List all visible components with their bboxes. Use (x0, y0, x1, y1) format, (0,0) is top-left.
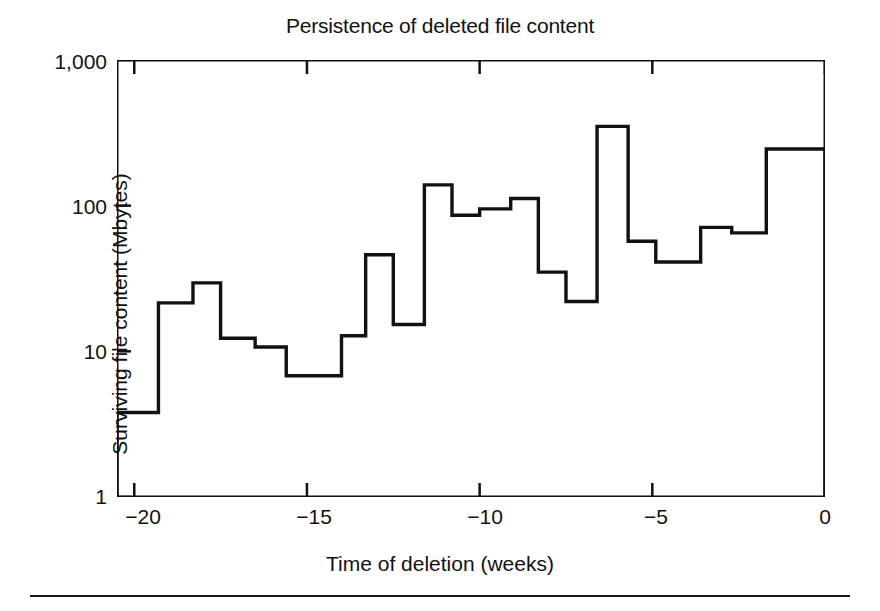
axis-frame-path (117, 60, 825, 497)
y-axis-label: Surviving file content (Mbytes) (108, 79, 132, 549)
x-tick-label-minus10: −10 (445, 505, 525, 529)
step-series-line (117, 126, 825, 497)
y-axis-tick-labels: 1,000 100 10 1 (0, 60, 107, 497)
chart-title: Persistence of deleted file content (0, 14, 880, 38)
x-tick-label-minus5: −5 (616, 505, 696, 529)
x-axis-label: Time of deletion (weeks) (0, 552, 880, 576)
plot-area: Surviving file content (Mbytes) (117, 60, 825, 497)
x-axis-tick-labels: −20 −15 −10 −5 0 (117, 505, 825, 535)
axis-frame (117, 60, 825, 497)
x-tick-label-minus15: −15 (274, 505, 354, 529)
x-tick-label-0: 0 (785, 505, 865, 529)
figure-container: Persistence of deleted file content 1,00… (0, 0, 880, 611)
y-tick-label-10: 10 (7, 340, 107, 364)
chart-canvas (117, 60, 825, 497)
footer-divider (30, 595, 850, 597)
y-tick-label-1: 1 (7, 485, 107, 509)
y-tick-label-100: 100 (7, 195, 107, 219)
y-tick-label-1000: 1,000 (7, 50, 107, 74)
x-axis-ticks (134, 60, 825, 497)
